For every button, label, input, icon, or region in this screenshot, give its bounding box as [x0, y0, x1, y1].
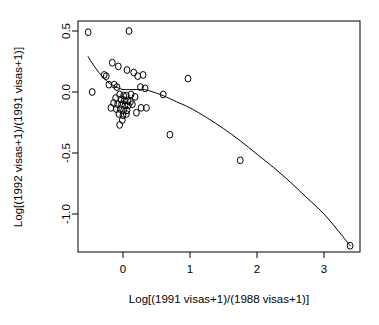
data-point — [115, 63, 121, 70]
y-tick-label: -0.5 — [60, 143, 72, 163]
x-axis-tick-labels: 0123 — [120, 263, 327, 275]
y-tick-label: -1.0 — [60, 204, 72, 224]
x-axis-title: Log[(1991 visas+1)/(1988 visas+1)] — [129, 293, 309, 305]
x-axis-ticks — [123, 252, 324, 258]
data-point — [117, 91, 123, 98]
data-point — [135, 73, 141, 80]
plot-frame — [78, 21, 360, 252]
data-point — [185, 75, 191, 82]
data-point — [126, 28, 132, 35]
x-tick-label: 2 — [254, 263, 260, 275]
y-tick-label: 0.0 — [60, 84, 72, 100]
data-points — [85, 28, 353, 250]
data-point — [134, 109, 140, 116]
y-axis-title: Log[(1992 visas+1)/(1991 visas+1)] — [12, 47, 24, 227]
data-point — [109, 59, 115, 66]
plot-canvas: 0123 0.50.0-0.5-1.0 Log[(1991 visas+1)/(… — [0, 0, 379, 325]
y-axis-ticks — [72, 31, 78, 214]
y-axis-tick-labels: 0.50.0-0.5-1.0 — [60, 23, 72, 224]
data-point — [103, 73, 109, 80]
fit-curve-path — [88, 57, 350, 246]
x-tick-label: 0 — [120, 263, 126, 275]
data-point — [167, 131, 173, 138]
data-point — [131, 69, 137, 76]
data-point — [124, 67, 130, 74]
x-tick-label: 3 — [321, 263, 327, 275]
data-point — [89, 89, 95, 96]
scatter-plot-figure: 0123 0.50.0-0.5-1.0 Log[(1991 visas+1)/(… — [0, 0, 379, 325]
x-tick-label: 1 — [187, 263, 193, 275]
data-point — [237, 157, 243, 164]
data-point — [140, 72, 146, 79]
data-point — [85, 29, 91, 36]
fit-curve-line — [88, 57, 350, 246]
y-tick-label: 0.5 — [60, 23, 72, 39]
